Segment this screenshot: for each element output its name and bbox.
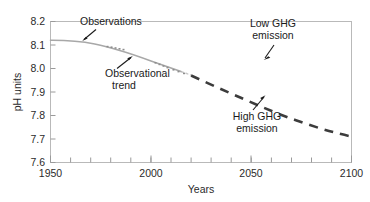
- observation-projection-transition: [181, 72, 191, 76]
- annotation-low-ghg-emission: Low GHG emission: [250, 17, 296, 60]
- annotation-observational-trend-line1: Observational: [105, 67, 170, 79]
- annotation-observational-trend-line2: trend: [112, 79, 136, 91]
- annotation-high-ghg-emission: High GHG emission: [233, 95, 281, 134]
- y-axis-title: pH units: [11, 73, 23, 112]
- chart-canvas: 7.6 7.7 7.8 7.9 8.0 8.1 8.2 1950 2000 20…: [0, 0, 370, 202]
- annotation-observations-label: Observations: [80, 15, 142, 27]
- y-tick-label-8-1: 8.1: [30, 39, 45, 51]
- annotation-observational-trend: Observational trend: [105, 56, 170, 91]
- x-tick-label-2000: 2000: [139, 167, 163, 179]
- annotation-high-ghg-line1: High GHG: [233, 110, 281, 122]
- annotation-high-ghg-line2: emission: [236, 122, 278, 134]
- x-axis-minor-ticks: [71, 158, 332, 163]
- plot-frame: [51, 22, 352, 163]
- annotation-low-ghg-arrowhead: [264, 56, 271, 60]
- x-axis-title: Years: [188, 183, 214, 195]
- annotation-observations: Observations: [80, 15, 142, 41]
- annotation-low-ghg-line2: emission: [252, 29, 294, 41]
- x-axis-major-ticks: [51, 156, 352, 163]
- y-tick-label-7-8: 7.8: [30, 109, 45, 121]
- x-tick-label-1950: 1950: [39, 167, 63, 179]
- y-axis-ticks: [51, 22, 56, 163]
- y-tick-label-7-7: 7.7: [30, 133, 45, 145]
- y-tick-label-7-9: 7.9: [30, 86, 45, 98]
- ocean-ph-projection-chart: 7.6 7.7 7.8 7.9 8.0 8.1 8.2 1950 2000 20…: [0, 0, 370, 202]
- annotation-low-ghg-line1: Low GHG: [250, 17, 296, 29]
- y-tick-label-8-0: 8.0: [30, 62, 45, 74]
- x-tick-label-2050: 2050: [239, 167, 263, 179]
- y-tick-label-8-2: 8.2: [30, 15, 45, 27]
- x-tick-label-2100: 2100: [340, 167, 364, 179]
